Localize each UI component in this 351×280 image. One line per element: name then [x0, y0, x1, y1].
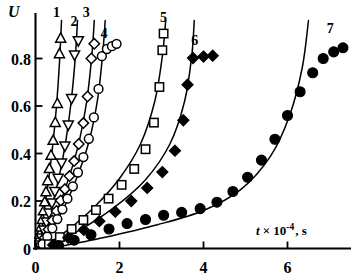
- data-point-2: [70, 51, 80, 60]
- x-tick-label: 4: [200, 259, 208, 276]
- data-point-2: [53, 174, 63, 183]
- data-point-6: [110, 206, 121, 217]
- data-point-4: [48, 224, 57, 233]
- data-point-6: [157, 166, 168, 177]
- data-point-1: [44, 163, 54, 172]
- data-point-5: [92, 206, 100, 214]
- x-axis-title-exponent: -4: [286, 222, 294, 232]
- data-point-4: [84, 134, 93, 143]
- data-point-5: [104, 194, 112, 202]
- curve-label-1: 1: [53, 5, 60, 20]
- y-axis-title: U: [8, 3, 21, 20]
- data-point-2: [60, 142, 70, 151]
- plot-markers: [32, 29, 348, 250]
- data-point-6: [94, 216, 105, 227]
- data-point-4: [74, 168, 83, 177]
- chart-figure: 00.20.40.60.8 0246 1234567 U t× 10-4, s: [0, 0, 351, 280]
- data-point-4: [94, 85, 103, 94]
- data-point-3: [86, 53, 96, 63]
- data-point-5: [150, 118, 158, 126]
- data-point-7: [141, 215, 151, 225]
- data-point-1: [46, 150, 56, 159]
- data-point-5: [158, 46, 166, 54]
- x-axis-title-multiplier: × 10: [263, 223, 287, 238]
- data-point-2: [57, 159, 67, 168]
- data-point-7: [104, 224, 114, 234]
- x-axis-tick-labels: 0246: [32, 259, 292, 276]
- data-point-5: [117, 181, 125, 189]
- data-point-7: [243, 172, 253, 182]
- curve-label-7: 7: [327, 21, 334, 36]
- y-axis-tick-labels: 00.20.40.60.8: [11, 51, 31, 258]
- curve-label-6: 6: [191, 33, 198, 48]
- data-point-5: [155, 83, 163, 91]
- data-point-7: [69, 235, 79, 245]
- y-tick-label: 0.8: [11, 51, 31, 68]
- data-point-4: [89, 113, 98, 122]
- x-tick-label: 2: [116, 259, 124, 276]
- data-point-1: [52, 98, 62, 107]
- y-tick-label: 0.4: [11, 146, 31, 163]
- data-point-5: [159, 29, 167, 37]
- data-point-7: [329, 47, 339, 57]
- data-point-1: [56, 33, 66, 42]
- data-point-7: [256, 155, 266, 165]
- data-point-2: [67, 95, 77, 104]
- data-point-7: [159, 210, 169, 220]
- curve-label-2: 2: [71, 14, 78, 29]
- data-point-4: [53, 215, 62, 224]
- data-point-7: [295, 87, 305, 97]
- x-axis-title-variable: t: [256, 223, 260, 238]
- chart-canvas: 00.20.40.60.8 0246 1234567 U t× 10-4, s: [0, 0, 351, 280]
- data-point-3: [74, 139, 84, 149]
- data-point-4: [79, 153, 88, 162]
- data-point-3: [89, 39, 99, 49]
- data-point-7: [283, 111, 293, 121]
- data-point-6: [207, 50, 218, 61]
- data-point-7: [212, 197, 222, 207]
- curve-label-3: 3: [83, 5, 90, 20]
- y-tick-label: 0.6: [11, 98, 31, 115]
- x-tick-label: 0: [32, 259, 40, 276]
- y-tick-label: 0.2: [11, 193, 31, 210]
- data-point-1: [43, 175, 53, 184]
- data-point-4: [112, 39, 121, 48]
- data-point-5: [141, 145, 149, 153]
- data-point-1: [50, 117, 60, 126]
- data-point-7: [270, 134, 280, 144]
- curve-label-4: 4: [101, 26, 108, 41]
- data-point-7: [228, 187, 238, 197]
- x-axis-title-unit: , s: [295, 223, 307, 238]
- data-point-4: [63, 194, 72, 203]
- data-point-6: [142, 182, 153, 193]
- data-point-4: [58, 205, 67, 214]
- data-point-7: [338, 43, 348, 53]
- x-axis-title: t× 10-4, s: [256, 222, 307, 238]
- data-point-7: [308, 68, 318, 78]
- data-point-2: [73, 37, 83, 46]
- data-point-4: [68, 182, 77, 191]
- data-point-6: [169, 145, 180, 156]
- curve-label-5: 5: [160, 10, 167, 25]
- data-point-5: [130, 165, 138, 173]
- data-point-3: [78, 118, 88, 128]
- data-point-7: [86, 230, 96, 240]
- data-point-1: [54, 48, 64, 57]
- data-point-6: [187, 52, 198, 63]
- y-tick-label: 0: [23, 241, 31, 258]
- x-tick-label: 6: [284, 259, 292, 276]
- data-point-7: [195, 204, 205, 214]
- data-point-7: [122, 219, 132, 229]
- data-point-6: [182, 79, 193, 90]
- data-point-7: [177, 207, 187, 217]
- data-point-3: [82, 91, 92, 101]
- data-point-7: [318, 54, 328, 64]
- data-point-2: [63, 121, 73, 130]
- data-point-1: [48, 135, 58, 144]
- data-point-5: [79, 216, 87, 224]
- data-point-3: [69, 156, 79, 166]
- data-point-6: [178, 115, 189, 126]
